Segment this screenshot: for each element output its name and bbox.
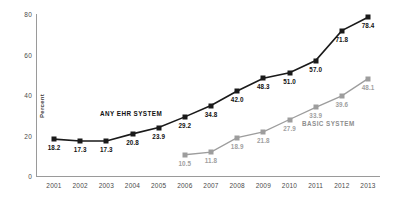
y-tick-20: 20: [24, 132, 32, 139]
data-label-2001: 18.2: [48, 144, 61, 151]
data-label-2009: 48.3: [257, 83, 270, 90]
data-label-2008: 42.0: [231, 96, 244, 103]
data-label-2010: 51.0: [283, 78, 296, 85]
x-tick-2013: 2013: [360, 182, 375, 189]
y-tick-0: 0: [28, 173, 32, 180]
data-label-2006: 10.5: [179, 160, 192, 167]
marker-2003: [104, 138, 109, 143]
x-tick-2008: 2008: [230, 182, 245, 189]
x-tick-2002: 2002: [73, 182, 88, 189]
marker-2007: [209, 150, 214, 155]
data-label-2004: 20.8: [126, 139, 139, 146]
marker-2010: [287, 117, 292, 122]
series-label-basic-system: BASIC SYSTEM: [302, 120, 355, 127]
marker-2006: [182, 114, 187, 119]
marker-2012: [339, 93, 344, 98]
data-label-2013: 78.4: [362, 22, 375, 29]
data-label-2007: 34.8: [205, 111, 218, 118]
marker-2007: [209, 103, 214, 108]
x-tick-2005: 2005: [151, 182, 166, 189]
marker-2009: [261, 129, 266, 134]
data-label-2007: 11.8: [205, 157, 217, 164]
marker-2011: [313, 58, 318, 63]
marker-2009: [261, 76, 266, 81]
marker-2005: [156, 125, 161, 130]
plot-area: Percent 020406080 2001200220032004200520…: [36, 14, 380, 176]
data-label-2009: 21.8: [257, 137, 270, 144]
x-tick-2011: 2011: [308, 182, 323, 189]
marker-2006: [182, 152, 187, 157]
data-label-2013: 48.1: [362, 84, 375, 91]
y-tick-60: 60: [24, 51, 32, 58]
marker-2004: [130, 131, 135, 136]
x-tick-2001: 2001: [46, 182, 61, 189]
x-tick-2004: 2004: [125, 182, 140, 189]
x-tick-2009: 2009: [256, 182, 271, 189]
data-label-2006: 29.2: [179, 122, 192, 129]
x-tick-2010: 2010: [282, 182, 297, 189]
marker-2013: [366, 76, 371, 81]
marker-2010: [287, 70, 292, 75]
data-label-2003: 17.3: [100, 146, 113, 153]
series-label-any-ehr-system: ANY EHR SYSTEM: [100, 110, 162, 117]
x-tick-2003: 2003: [99, 182, 114, 189]
marker-2011: [313, 105, 318, 110]
data-label-2011: 57.0: [309, 66, 322, 73]
y-tick-40: 40: [24, 92, 32, 99]
x-axis-line: [36, 176, 380, 177]
x-tick-2006: 2006: [177, 182, 192, 189]
marker-2012: [339, 28, 344, 33]
x-tick-2012: 2012: [334, 182, 349, 189]
marker-2001: [52, 137, 57, 142]
x-tick-2007: 2007: [203, 182, 218, 189]
data-label-2005: 23.9: [152, 133, 165, 140]
data-label-2010: 27.9: [283, 125, 296, 132]
marker-2008: [235, 88, 240, 93]
marker-2008: [235, 135, 240, 140]
data-label-2012: 71.8: [336, 36, 349, 43]
marker-2013: [366, 15, 371, 20]
line-chart: Percent 020406080 2001200220032004200520…: [0, 0, 396, 212]
data-label-2008: 18.9: [231, 143, 244, 150]
y-tick-80: 80: [24, 11, 32, 18]
marker-2002: [78, 138, 83, 143]
data-label-2002: 17.3: [74, 146, 87, 153]
data-label-2011: 33.9: [309, 112, 322, 119]
data-label-2012: 39.6: [336, 101, 349, 108]
